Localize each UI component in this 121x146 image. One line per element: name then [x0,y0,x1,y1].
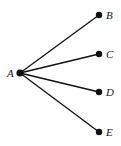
node-a [16,69,23,76]
edge-a-b [20,15,99,73]
node-label-e: E [105,126,113,138]
nodes [16,12,102,135]
node-e [96,129,102,135]
node-b [96,12,102,18]
node-label-a: A [6,67,14,79]
node-c [96,51,102,57]
node-label-b: B [106,9,113,21]
node-label-c: C [106,48,114,60]
node-label-d: D [105,86,114,98]
edges [20,15,99,132]
tree-diagram: ABCDE [0,0,121,146]
node-d [96,89,102,95]
